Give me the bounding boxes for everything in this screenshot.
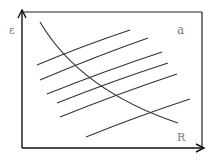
x-axis xyxy=(22,144,204,152)
increasing-lines xyxy=(37,30,190,137)
x-axis-label: R xyxy=(177,132,185,143)
increasing-line xyxy=(37,30,130,65)
panel-label: a xyxy=(177,24,184,36)
increasing-line xyxy=(40,38,148,80)
increasing-line xyxy=(86,99,190,137)
y-axis-label: ε xyxy=(9,25,15,36)
y-axis xyxy=(18,10,26,148)
plot-frame xyxy=(22,12,202,148)
